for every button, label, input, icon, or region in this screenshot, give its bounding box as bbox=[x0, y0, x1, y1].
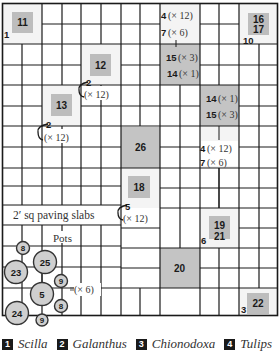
svg-text:4: 4 bbox=[161, 10, 167, 21]
svg-text:14: 14 bbox=[206, 93, 217, 104]
svg-text:24: 24 bbox=[12, 308, 23, 319]
svg-text:(× 6): (× 6) bbox=[168, 27, 188, 39]
paving-label: 2′ sq paving slabs bbox=[13, 209, 95, 222]
pot-23: 23 bbox=[5, 261, 28, 284]
svg-text:(× 12): (× 12) bbox=[84, 89, 109, 101]
legend-label: Tulips bbox=[240, 336, 272, 352]
corner-label-1: 1 bbox=[4, 29, 10, 40]
pots-qty: (× 6) bbox=[74, 284, 94, 296]
block-21: 21 bbox=[214, 231, 226, 242]
svg-text:5: 5 bbox=[39, 289, 45, 300]
svg-text:8: 8 bbox=[59, 302, 64, 311]
legend-label: Chionodoxa bbox=[152, 336, 216, 352]
block-12: 12 bbox=[95, 60, 107, 71]
block-11: 11 bbox=[17, 17, 28, 28]
corner-label-10: 10 bbox=[243, 35, 254, 46]
svg-text:15: 15 bbox=[206, 109, 217, 120]
pot-24: 24 bbox=[6, 302, 29, 325]
block-13: 13 bbox=[56, 100, 68, 111]
svg-text:7: 7 bbox=[161, 27, 166, 38]
pot-9-right: 9 bbox=[55, 275, 68, 288]
corner-label-3: 3 bbox=[241, 304, 246, 315]
legend-badge: 3 bbox=[136, 339, 147, 350]
svg-text:(× 3): (× 3) bbox=[218, 109, 238, 121]
svg-text:(× 1): (× 1) bbox=[179, 68, 199, 80]
legend-label: Scilla bbox=[18, 336, 48, 352]
svg-text:(× 12): (× 12) bbox=[168, 10, 193, 22]
legend-item-chionodoxa: 3 Chionodoxa bbox=[136, 336, 216, 352]
svg-text:23: 23 bbox=[11, 267, 22, 278]
corner-label-6: 6 bbox=[201, 235, 206, 246]
legend-item-scilla: 1 Scilla bbox=[2, 336, 48, 352]
pot-5: 5 bbox=[31, 283, 54, 306]
legend-item-tulips: 4 Tulips bbox=[224, 336, 272, 352]
pots-label: Pots bbox=[53, 232, 72, 244]
svg-text:8: 8 bbox=[21, 244, 26, 253]
pot-8-bottom: 8 bbox=[55, 300, 68, 313]
legend-item-galanthus: 2 Galanthus bbox=[57, 336, 127, 352]
legend-badge: 1 bbox=[2, 339, 13, 350]
svg-text:(× 6): (× 6) bbox=[207, 157, 227, 169]
block-26: 26 bbox=[135, 142, 147, 153]
svg-text:9: 9 bbox=[59, 277, 64, 286]
legend-badge: 2 bbox=[57, 339, 68, 350]
svg-text:(× 12): (× 12) bbox=[207, 143, 232, 155]
legend: 1 Scilla 2 Galanthus 3 Chionodoxa 4 Tuli… bbox=[2, 336, 279, 352]
block-19: 19 bbox=[214, 220, 226, 231]
svg-text:(× 1): (× 1) bbox=[218, 93, 238, 105]
pot-8-top: 8 bbox=[17, 242, 30, 255]
svg-text:15: 15 bbox=[166, 52, 177, 63]
pot-25: 25 bbox=[34, 251, 57, 274]
svg-text:(× 12): (× 12) bbox=[123, 213, 148, 225]
svg-text:25: 25 bbox=[40, 257, 51, 268]
block-17: 17 bbox=[253, 24, 265, 35]
svg-text:5: 5 bbox=[125, 201, 131, 212]
legend-label: Galanthus bbox=[73, 336, 127, 352]
block-18: 18 bbox=[133, 182, 145, 193]
svg-text:2: 2 bbox=[46, 119, 51, 130]
legend-badge: 4 bbox=[224, 339, 235, 350]
pots: 8 25 23 9 5 8 24 9 bbox=[5, 242, 77, 327]
block-20: 20 bbox=[174, 263, 186, 274]
svg-text:14: 14 bbox=[167, 68, 178, 79]
pot-9-bottom: 9 bbox=[36, 314, 48, 326]
svg-text:(× 12): (× 12) bbox=[44, 132, 69, 144]
svg-text:(× 3): (× 3) bbox=[178, 52, 198, 64]
svg-text:4: 4 bbox=[200, 143, 206, 154]
svg-text:7: 7 bbox=[200, 157, 205, 168]
svg-text:2: 2 bbox=[86, 77, 91, 88]
garden-plan: 11 12 13 16 17 26 18 19 21 20 22 15 (× 3… bbox=[0, 0, 279, 354]
block-22: 22 bbox=[252, 298, 264, 309]
svg-text:9: 9 bbox=[40, 316, 45, 325]
